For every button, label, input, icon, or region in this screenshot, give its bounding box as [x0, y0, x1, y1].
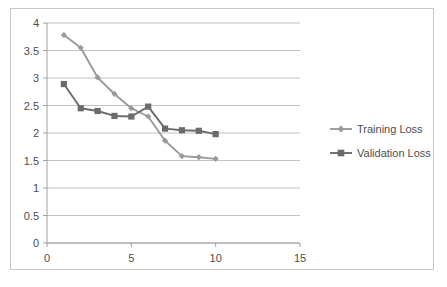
legend-label: Validation Loss	[357, 147, 431, 159]
legend-label: Training Loss	[357, 123, 423, 135]
x-axis-tick-labels: 051015	[44, 252, 306, 264]
series-validation-loss	[61, 81, 219, 137]
data-point-marker	[61, 81, 67, 87]
legend-item-training-loss[interactable]: Training Loss	[330, 123, 423, 135]
y-tick-label: 4	[33, 17, 39, 29]
data-point-marker	[213, 156, 219, 162]
y-tick-label: 0	[33, 237, 39, 249]
data-point-marker	[213, 131, 219, 137]
data-point-marker	[162, 126, 168, 132]
legend-item-validation-loss[interactable]: Validation Loss	[330, 147, 431, 159]
series-group	[61, 32, 219, 162]
y-axis-tick-labels: 00.511.522.533.54	[24, 17, 39, 249]
legend: Training LossValidation Loss	[330, 123, 431, 159]
legend-marker-icon	[338, 126, 345, 133]
y-tick-label: 1.5	[24, 155, 39, 167]
y-tick-label: 2	[33, 127, 39, 139]
data-point-marker	[128, 113, 134, 119]
y-tick-label: 2.5	[24, 100, 39, 112]
series-line	[64, 84, 216, 134]
x-tick-label: 10	[210, 252, 222, 264]
data-point-marker	[196, 128, 202, 134]
line-chart: 00.511.522.533.54 051015 Training LossVa…	[0, 0, 447, 287]
data-point-marker	[145, 104, 151, 110]
x-tick-label: 5	[128, 252, 134, 264]
series-line	[64, 35, 216, 159]
y-tick-label: 3	[33, 72, 39, 84]
y-tick-label: 1	[33, 182, 39, 194]
data-point-marker	[95, 108, 101, 114]
y-tick-label: 3.5	[24, 45, 39, 57]
legend-marker-icon	[338, 150, 345, 157]
x-tick-label: 15	[294, 252, 306, 264]
data-point-marker	[179, 127, 185, 133]
series-training-loss	[61, 32, 219, 162]
y-tick-label: 0.5	[24, 210, 39, 222]
data-point-marker	[78, 105, 84, 111]
x-tick-label: 0	[44, 252, 50, 264]
data-point-marker	[196, 154, 202, 160]
axis-group	[43, 23, 300, 247]
data-point-marker	[111, 113, 117, 119]
